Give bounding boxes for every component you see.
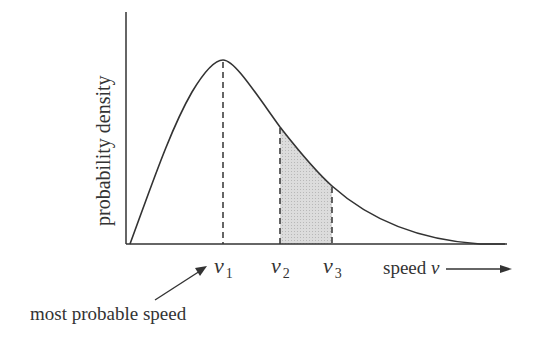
speed-arrow-head (500, 265, 512, 273)
v2-label: v2 (271, 253, 290, 279)
shaded-area (280, 127, 332, 244)
v2-subscript: 2 (283, 266, 290, 281)
v1-subscript: 1 (226, 266, 233, 281)
annotation-arrow-head (195, 266, 207, 276)
x-axis-label-text: speed (383, 257, 426, 278)
v1-label: v1 (214, 253, 233, 279)
y-axis-label: probability density (92, 75, 115, 226)
v2-symbol: v (271, 253, 281, 278)
annotation-arrow-line (155, 271, 200, 300)
v1-symbol: v (214, 253, 224, 278)
v3-label: v3 (323, 253, 342, 279)
x-axis-label-symbol: v (431, 257, 439, 278)
most-probable-speed-annotation: most probable speed (30, 303, 186, 325)
v3-subscript: 3 (335, 266, 342, 281)
x-axis-label: speed v (383, 257, 439, 279)
v3-symbol: v (323, 253, 333, 278)
